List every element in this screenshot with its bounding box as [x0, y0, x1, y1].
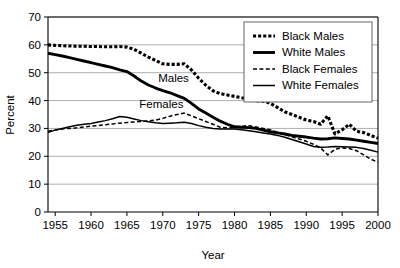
y-axis-title: Percent [4, 94, 16, 134]
x-tick-label: 1980 [222, 219, 248, 231]
y-tick-label: 40 [28, 95, 41, 107]
x-axis: 1955196019651970197519801985199019952000 [42, 212, 390, 231]
x-tick-label: 2000 [365, 219, 391, 231]
plot-annotation: Females [139, 98, 183, 110]
y-tick-label: 30 [28, 122, 41, 134]
line-chart: 010203040506070 195519601965197019751980… [0, 0, 400, 268]
series-line-white-females [48, 116, 378, 152]
chart-container: 010203040506070 195519601965197019751980… [0, 0, 400, 268]
y-tick-label: 20 [28, 150, 41, 162]
legend-label: Black Females [282, 63, 358, 75]
x-axis-title: Year [201, 249, 224, 261]
legend-label: White Males [282, 46, 346, 58]
plot-annotation: Males [158, 72, 189, 84]
legend-label: White Females [282, 79, 359, 91]
legend-label: Black Males [282, 30, 344, 42]
x-tick-label: 1975 [186, 219, 212, 231]
x-tick-label: 1995 [329, 219, 355, 231]
chart-legend: Black MalesWhite MalesBlack FemalesWhite… [244, 22, 372, 102]
y-tick-label: 70 [28, 11, 41, 23]
x-tick-label: 1955 [42, 219, 68, 231]
y-tick-label: 10 [28, 178, 41, 190]
x-tick-label: 1965 [114, 219, 140, 231]
x-tick-label: 1970 [150, 219, 176, 231]
y-tick-label: 60 [28, 39, 41, 51]
y-tick-label: 50 [28, 67, 41, 79]
y-tick-label: 0 [35, 206, 41, 218]
x-tick-label: 1960 [78, 219, 104, 231]
x-tick-label: 1990 [293, 219, 319, 231]
x-tick-label: 1985 [258, 219, 284, 231]
